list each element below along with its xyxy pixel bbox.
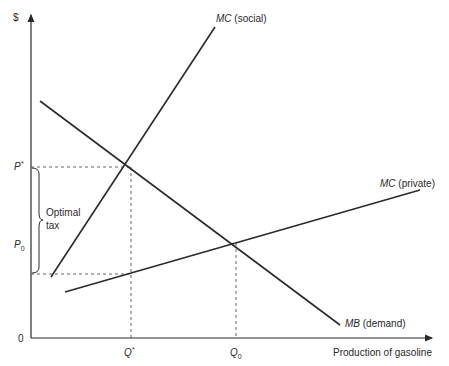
optimal-tax-label-line1: Optimal bbox=[46, 207, 80, 218]
optimal-tax-brace bbox=[32, 168, 43, 273]
q0-label: Q0 bbox=[230, 347, 242, 360]
origin-label: 0 bbox=[18, 333, 24, 344]
y-axis-label: $ bbox=[13, 12, 19, 23]
mc-private-label: MC (private) bbox=[380, 178, 435, 189]
mc-private-curve bbox=[65, 190, 420, 292]
x-axis-label: Production of gasoline bbox=[333, 347, 432, 358]
optimal-tax-label-line2: tax bbox=[46, 220, 59, 231]
p-star-label: P* bbox=[14, 160, 24, 172]
mb-demand-label: MB (demand) bbox=[345, 318, 406, 329]
q-star-label: Q* bbox=[124, 346, 135, 358]
mc-social-label: MC (social) bbox=[216, 13, 267, 24]
externality-diagram: $ 0 Production of gasoline MC (social) M… bbox=[0, 0, 449, 366]
mb-demand-curve bbox=[40, 101, 340, 325]
p0-label: P0 bbox=[14, 239, 25, 252]
mc-social-curve bbox=[51, 27, 215, 277]
